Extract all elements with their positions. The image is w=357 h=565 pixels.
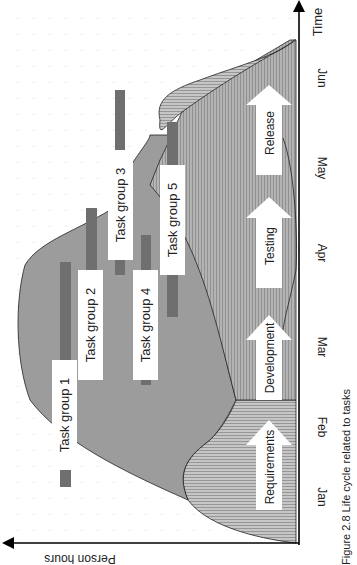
task-group-3-label: Task group 3 (108, 150, 133, 260)
task-group-1-label: Task group 1 (52, 360, 77, 470)
month-label-feb: Feb (315, 417, 329, 438)
month-label-jan: Jan (315, 487, 329, 506)
month-label-apr: Apr (315, 244, 329, 263)
svg-text:Testing: Testing (263, 227, 277, 265)
lifecycle-diagram: Task group 1 Task group 2 Task group 3 T… (0, 0, 357, 565)
month-label-mar: Mar (315, 337, 329, 358)
person-hours-axis-arrowhead (2, 537, 14, 549)
month-label-jun: Jun (315, 68, 329, 87)
svg-text:Requirements: Requirements (263, 430, 277, 505)
svg-text:Development: Development (263, 322, 277, 393)
time-axis-label: Time (310, 8, 325, 36)
svg-text:Task group 4: Task group 4 (138, 288, 153, 362)
svg-text:Release: Release (263, 111, 277, 155)
task-group-4-label: Task group 4 (133, 270, 158, 380)
svg-text:Task group 5: Task group 5 (165, 183, 180, 257)
task-group-5-label: Task group 5 (160, 165, 185, 275)
svg-text:Task group 3: Task group 3 (113, 168, 128, 242)
svg-text:Task group 1: Task group 1 (57, 378, 72, 452)
person-hours-axis-label: Person hours (44, 552, 115, 565)
svg-text:Task group 2: Task group 2 (83, 288, 98, 362)
month-label-may: May (315, 157, 329, 180)
time-axis-arrowhead (293, 0, 305, 12)
task-group-2-label: Task group 2 (78, 270, 103, 380)
figure-caption: Figure 2.8 Life cycle related to tasks (340, 388, 352, 565)
